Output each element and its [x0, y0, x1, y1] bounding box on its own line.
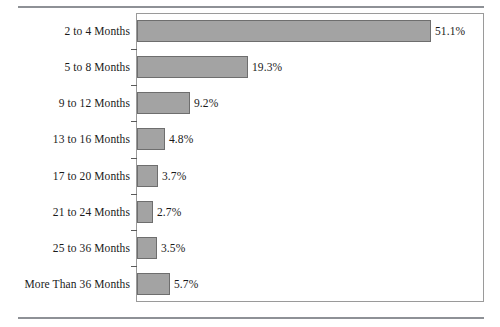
bar	[137, 237, 157, 259]
bar	[137, 56, 248, 78]
bar-rows-container: 2 to 4 Months51.1%5 to 8 Months19.3%9 to…	[0, 13, 500, 302]
bar-value-label: 19.3%	[252, 61, 282, 73]
top-divider-rule	[18, 6, 484, 8]
bar	[137, 128, 165, 150]
bar-row: More Than 36 Months5.7%	[0, 266, 500, 302]
bar-value-label: 5.7%	[174, 278, 198, 290]
category-label: 17 to 20 Months	[0, 170, 130, 182]
chart-figure: 2 to 4 Months51.1%5 to 8 Months19.3%9 to…	[0, 0, 500, 327]
bar-value-label: 3.5%	[161, 242, 185, 254]
bar	[137, 20, 431, 42]
bar-row: 5 to 8 Months19.3%	[0, 49, 500, 85]
category-label: 25 to 36 Months	[0, 242, 130, 254]
bar-row: 2 to 4 Months51.1%	[0, 13, 500, 49]
bar-value-label: 2.7%	[157, 206, 181, 218]
bar-value-label: 9.2%	[194, 97, 218, 109]
category-label: 9 to 12 Months	[0, 97, 130, 109]
bar	[137, 165, 158, 187]
caption-remnant	[150, 0, 270, 3]
bottom-divider-rule	[18, 317, 484, 319]
category-label: 21 to 24 Months	[0, 206, 130, 218]
bar-row: 21 to 24 Months2.7%	[0, 194, 500, 230]
category-label: 5 to 8 Months	[0, 61, 130, 73]
bar-value-label: 4.8%	[169, 133, 193, 145]
bar-row: 17 to 20 Months3.7%	[0, 158, 500, 194]
bar-value-label: 3.7%	[162, 170, 186, 182]
bar-value-label: 51.1%	[435, 25, 465, 37]
bar	[137, 92, 190, 114]
category-label: 13 to 16 Months	[0, 133, 130, 145]
bar	[137, 201, 153, 223]
bar-row: 13 to 16 Months4.8%	[0, 121, 500, 157]
bar	[137, 273, 170, 295]
category-label: 2 to 4 Months	[0, 25, 130, 37]
bar-row: 9 to 12 Months9.2%	[0, 85, 500, 121]
category-label: More Than 36 Months	[0, 278, 130, 290]
bar-row: 25 to 36 Months3.5%	[0, 230, 500, 266]
